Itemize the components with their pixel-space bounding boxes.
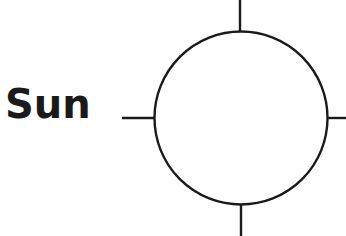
sun-diagram: Sun (0, 0, 346, 236)
sun-circle (155, 32, 328, 205)
sun-symbol-icon (0, 0, 346, 236)
